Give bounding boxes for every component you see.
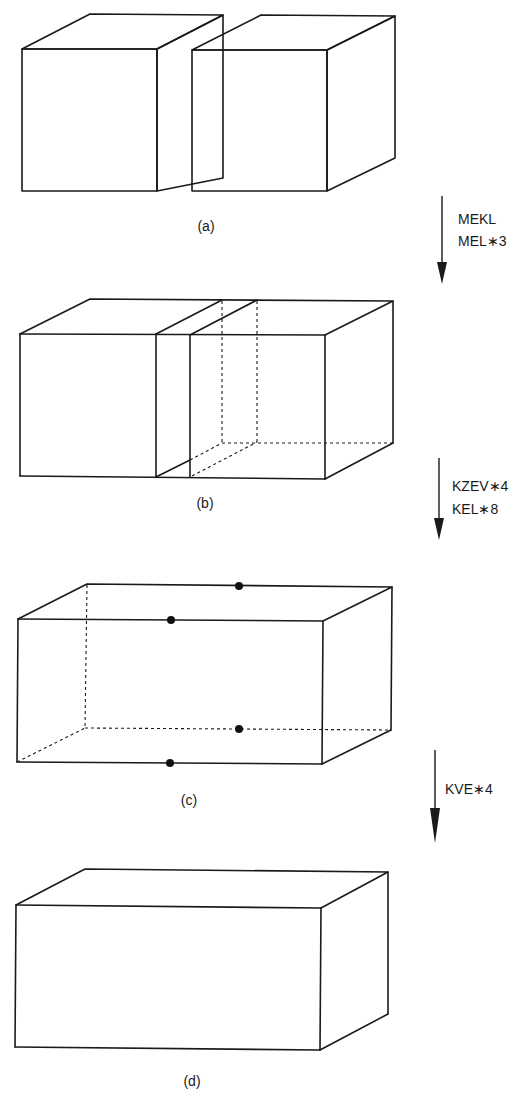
- cube-left: [22, 14, 223, 191]
- operator-kel8: KEL∗8: [452, 501, 498, 517]
- operator-mekl: MEKL: [458, 211, 496, 227]
- euler-operator-diagram: (a) MEKL MEL∗3: [0, 0, 532, 1100]
- transition-c-d: KVE∗4: [430, 750, 493, 843]
- down-arrow-icon: [434, 458, 444, 540]
- hidden-edges-c: [17, 585, 391, 762]
- stage-c: (c): [17, 582, 392, 808]
- operator-kve4: KVE∗4: [445, 781, 493, 797]
- transition-b-c: KZEV∗4 KEL∗8: [434, 458, 509, 540]
- operator-mel3: MEL∗3: [458, 233, 507, 249]
- stage-label-a: (a): [197, 218, 214, 234]
- down-arrow-icon: [437, 196, 447, 284]
- transition-a-b: MEKL MEL∗3: [437, 196, 507, 284]
- operator-kzev4: KZEV∗4: [452, 478, 509, 494]
- filled-dot-icon: [235, 725, 243, 733]
- filled-dot-icon: [166, 759, 174, 767]
- stage-d: (d): [15, 869, 388, 1089]
- filled-dot-icon: [167, 616, 175, 624]
- down-arrow-icon: [430, 750, 440, 843]
- stage-a: (a): [22, 14, 395, 234]
- filled-dot-icon: [235, 582, 243, 590]
- stage-b: (b): [20, 299, 393, 511]
- stage-label-b: (b): [196, 495, 213, 511]
- stage-label-c: (c): [181, 792, 197, 808]
- stage-label-d: (d): [183, 1073, 200, 1089]
- hidden-edges-b: [190, 301, 393, 476]
